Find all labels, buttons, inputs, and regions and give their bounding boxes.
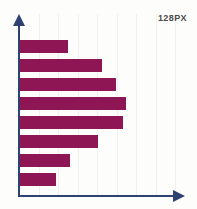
size-label: 128PX xyxy=(158,13,187,23)
x-axis-arrow-icon xyxy=(173,190,185,202)
y-axis-arrow-icon xyxy=(13,14,25,26)
bar-series xyxy=(19,40,189,192)
bar xyxy=(19,154,70,167)
x-axis-line xyxy=(18,195,175,197)
bar xyxy=(19,78,116,91)
bar xyxy=(19,116,123,129)
bar xyxy=(19,97,126,110)
chart-screenshot: 128PX xyxy=(0,0,197,209)
bar xyxy=(19,135,98,148)
chart-plot-area xyxy=(0,0,197,209)
bar xyxy=(19,59,102,72)
bar xyxy=(19,173,56,186)
y-axis-line xyxy=(18,24,20,196)
bar xyxy=(19,40,68,53)
